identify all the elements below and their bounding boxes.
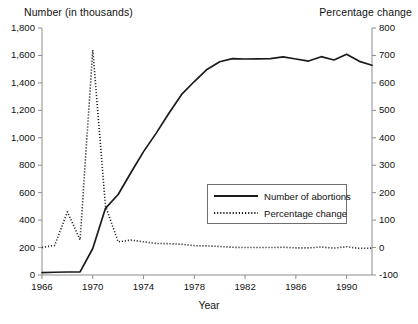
- y-left-tick-200: 200: [19, 243, 35, 253]
- y-right-tick-200: 200: [379, 188, 395, 198]
- tick-marks: [38, 28, 376, 279]
- y-right-tick-100: 100: [379, 215, 395, 225]
- y-right-tick-300: 300: [379, 160, 395, 170]
- x-tick-1990: 1990: [336, 282, 357, 292]
- chart-legend: Number of abortions Percentage change: [207, 184, 347, 224]
- y-left-tick-800: 800: [19, 160, 35, 170]
- y-left-tick-600: 600: [19, 188, 35, 198]
- x-tick-1978: 1978: [184, 282, 205, 292]
- y-right-tick-400: 400: [379, 133, 395, 143]
- y-right-tick-600: 600: [379, 78, 395, 88]
- legend-label-0: Number of abortions: [264, 191, 351, 202]
- y-left-tick-1000: 1,000: [11, 133, 35, 143]
- legend-label-1: Percentage change: [264, 208, 347, 219]
- x-tick-1970: 1970: [82, 282, 103, 292]
- y-right-tick-500: 500: [379, 106, 395, 116]
- chart-figure: Number (in thousands) Percentage change …: [0, 0, 418, 324]
- y-left-tick-1400: 1,400: [11, 78, 35, 88]
- y-left-tick-1200: 1,200: [11, 106, 35, 116]
- y-left-tick-1800: 1,800: [11, 23, 35, 33]
- y-right-tick-700: 700: [379, 51, 395, 61]
- y-left-tick-400: 400: [19, 215, 35, 225]
- series-line-number-of-abortions: [42, 54, 372, 272]
- x-tick-1982: 1982: [234, 282, 255, 292]
- axis-frame: [42, 28, 372, 275]
- x-tick-1986: 1986: [285, 282, 306, 292]
- legend-item-percentage-change: Percentage change: [208, 204, 347, 222]
- y-left-tick-1600: 1,600: [11, 51, 35, 61]
- legend-solid-line-icon: [214, 191, 258, 201]
- plot-area: [0, 0, 418, 324]
- legend-dotted-line-icon: [214, 208, 258, 218]
- y-right-tick-0: 0: [379, 243, 384, 253]
- y-right-tick-800: 800: [379, 23, 395, 33]
- x-tick-1966: 1966: [31, 282, 52, 292]
- y-left-tick-0: 0: [30, 270, 35, 280]
- legend-item-number-of-abortions: Number of abortions: [208, 187, 351, 205]
- y-right-tick-neg100: -100: [379, 270, 398, 280]
- x-tick-1974: 1974: [133, 282, 154, 292]
